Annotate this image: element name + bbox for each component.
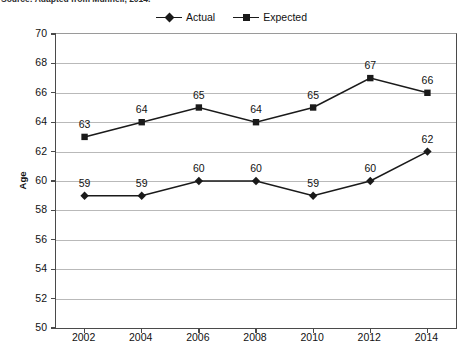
legend-item-actual[interactable]: Actual: [156, 11, 215, 23]
data-point-expected[interactable]: [81, 134, 87, 140]
data-label-expected: 63: [65, 118, 105, 130]
y-tick-label: 50: [13, 321, 47, 333]
source-note: Source: Adapted from Munnell, 2014.: [0, 0, 463, 6]
x-tick-label: 2004: [111, 331, 171, 343]
data-label-expected: 66: [407, 74, 447, 86]
y-tick-label: 62: [13, 145, 47, 157]
y-tick-label: 58: [13, 203, 47, 215]
y-tick-label: 70: [13, 27, 47, 39]
y-tick-label: 56: [13, 233, 47, 245]
y-tick-label: 66: [13, 86, 47, 98]
x-tick-label: 2014: [396, 331, 456, 343]
line-chart: Age 5959606059606263646564656766 7068666…: [0, 25, 463, 357]
data-label-actual: 62: [407, 133, 447, 145]
y-tick-label: 60: [13, 174, 47, 186]
data-point-actual[interactable]: [195, 177, 203, 185]
legend-item-expected[interactable]: Expected: [233, 11, 307, 23]
chart-legend: Actual Expected: [0, 9, 463, 25]
data-label-actual: 60: [236, 162, 276, 174]
data-label-expected: 65: [179, 89, 219, 101]
x-tick-label: 2010: [282, 331, 342, 343]
data-point-expected[interactable]: [367, 75, 373, 81]
data-point-actual[interactable]: [80, 192, 88, 200]
y-tick-label: 54: [13, 262, 47, 274]
data-point-expected[interactable]: [196, 104, 202, 110]
data-point-actual[interactable]: [309, 192, 317, 200]
data-point-actual[interactable]: [366, 177, 374, 185]
data-label-expected: 64: [122, 103, 162, 115]
data-label-expected: 65: [293, 89, 333, 101]
data-point-expected[interactable]: [253, 119, 259, 125]
source-note-text: Source: Adapted from Munnell, 2014.: [1, 0, 150, 4]
data-point-actual[interactable]: [252, 177, 260, 185]
data-label-actual: 60: [350, 162, 390, 174]
square-marker-icon: [233, 12, 259, 22]
y-tick-label: 64: [13, 115, 47, 127]
data-point-expected[interactable]: [310, 104, 316, 110]
data-point-actual[interactable]: [423, 147, 431, 155]
x-tick-label: 2006: [168, 331, 228, 343]
data-label-actual: 59: [65, 177, 105, 189]
series-layer: [56, 34, 456, 328]
legend-label-actual: Actual: [186, 11, 215, 23]
plot-area: 5959606059606263646564656766: [55, 33, 457, 329]
y-tick-label: 68: [13, 56, 47, 68]
data-label-expected: 67: [350, 59, 390, 71]
data-label-actual: 59: [122, 177, 162, 189]
data-point-expected[interactable]: [424, 90, 430, 96]
data-label-actual: 60: [179, 162, 219, 174]
x-tick-label: 2012: [339, 331, 399, 343]
x-tick-label: 2002: [54, 331, 114, 343]
diamond-marker-icon: [156, 12, 182, 22]
data-point-actual[interactable]: [138, 192, 146, 200]
y-tick-label: 52: [13, 292, 47, 304]
legend-label-expected: Expected: [263, 11, 307, 23]
x-tick-label: 2008: [225, 331, 285, 343]
data-point-expected[interactable]: [139, 119, 145, 125]
data-label-actual: 59: [293, 177, 333, 189]
data-label-expected: 64: [236, 103, 276, 115]
